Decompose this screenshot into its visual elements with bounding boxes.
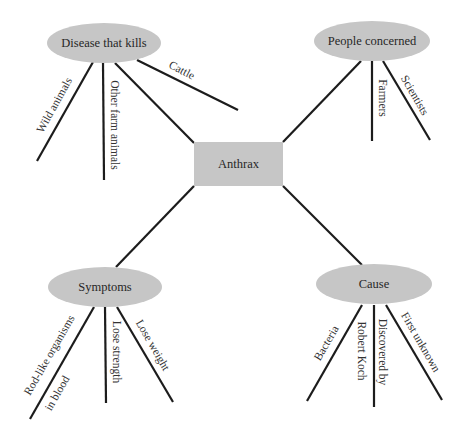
connector-center-to-symptoms (116, 186, 194, 267)
branch-label-other-farm-animals: Other farm animals (109, 80, 121, 170)
topic-label-cause: Cause (359, 277, 390, 291)
connector-center-to-people (283, 61, 361, 142)
connector-center-to-cause (283, 186, 362, 265)
concept-map: AnthraxDisease that killsPeople concerne… (0, 0, 463, 439)
branch-label-bacteria: Bacteria (311, 323, 341, 362)
branch-label-in-blood: in blood (42, 373, 72, 412)
branch-label-lose-strength: Lose strength (110, 321, 123, 384)
branch-line-other-farm-animals (103, 63, 104, 180)
branch-labels: Wild animalsOther farm animalsCattleFarm… (21, 58, 443, 412)
topic-label-disease: Disease that kills (61, 36, 147, 50)
branch-label-discovered-by: Discovered by (376, 319, 389, 386)
branch-line-lose-strength (105, 307, 106, 403)
topic-label-symptoms: Symptoms (78, 280, 132, 294)
branch-label-robert-koch: Robert Koch (356, 321, 368, 380)
center-node-label: Anthrax (218, 157, 260, 171)
branch-label-farmers: Farmers (377, 79, 389, 117)
topic-label-people: People concerned (328, 34, 417, 48)
